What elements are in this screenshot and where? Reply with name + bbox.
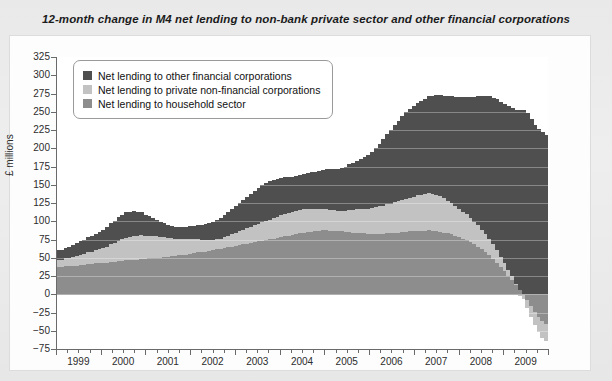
legend-item: Net lending to other financial corporati… [83, 69, 320, 82]
y-tick [51, 94, 56, 95]
y-tick [51, 221, 56, 222]
y-tick-label: 150 [14, 180, 50, 190]
y-tick-label: 25 [14, 271, 50, 281]
x-tick-major [548, 349, 549, 355]
x-tick-minor [168, 349, 169, 353]
x-tick-label: 2004 [279, 356, 325, 367]
x-tick-minor [268, 349, 269, 353]
legend-label: Net lending to household sector [98, 98, 246, 110]
y-tick [51, 313, 56, 314]
x-tick-minor [425, 349, 426, 353]
legend-label: Net lending to other financial corporati… [98, 70, 292, 82]
x-tick-label: 2007 [413, 356, 459, 367]
y-tick-label: −75 [14, 344, 50, 354]
x-tick-minor [447, 349, 448, 353]
y-tick-label: 175 [14, 162, 50, 172]
x-tick-minor [347, 349, 348, 353]
x-tick-minor [134, 349, 135, 353]
x-tick-major [324, 349, 325, 355]
x-tick-label: 2003 [234, 356, 280, 367]
x-tick-label: 1999 [55, 356, 101, 367]
x-tick-minor [201, 349, 202, 353]
x-tick-minor [67, 349, 68, 353]
x-tick-minor [470, 349, 471, 353]
y-tick [51, 148, 56, 149]
x-tick-minor [291, 349, 292, 353]
gridline [56, 313, 548, 314]
y-tick [51, 185, 56, 186]
legend-item: Net lending to private non-financial cor… [83, 83, 320, 96]
chart-card: £ millions 32530027525022520017515012510… [10, 36, 590, 370]
stack-segment [544, 294, 548, 324]
x-tick-minor [302, 349, 303, 353]
gridline [56, 331, 548, 332]
x-tick-major [503, 349, 504, 355]
y-axis-line [56, 57, 57, 350]
x-tick-major [459, 349, 460, 355]
gridline [56, 130, 548, 131]
stack-segment [544, 135, 548, 295]
x-tick-major [369, 349, 370, 355]
x-tick-label: 2002 [190, 356, 236, 367]
gridline [56, 258, 548, 259]
x-tick-minor [112, 349, 113, 353]
x-tick-minor [336, 349, 337, 353]
y-tick [51, 240, 56, 241]
x-tick-minor [436, 349, 437, 353]
x-tick-major [280, 349, 281, 355]
y-tick-label: 50 [14, 253, 50, 263]
x-tick-minor [526, 349, 527, 353]
y-tick-label: 225 [14, 125, 50, 135]
y-tick-label: 125 [14, 198, 50, 208]
y-tick [51, 294, 56, 295]
x-tick-minor [157, 349, 158, 353]
gridline [56, 185, 548, 186]
x-tick-major [145, 349, 146, 355]
x-tick-label: 2000 [100, 356, 146, 367]
x-tick-minor [257, 349, 258, 353]
x-tick-label: 2005 [324, 356, 370, 367]
y-tick [51, 130, 56, 131]
x-tick-minor [313, 349, 314, 353]
legend-swatch-icon [83, 85, 92, 94]
x-tick-minor [492, 349, 493, 353]
y-tick [51, 75, 56, 76]
x-tick-minor [246, 349, 247, 353]
y-tick-label: 300 [14, 70, 50, 80]
x-tick-major [101, 349, 102, 355]
gridline [56, 276, 548, 277]
y-tick [51, 167, 56, 168]
y-tick-label: 250 [14, 107, 50, 117]
y-tick-label: 325 [14, 52, 50, 62]
legend-label: Net lending to private non-financial cor… [98, 84, 320, 96]
x-tick-major [235, 349, 236, 355]
x-tick-minor [380, 349, 381, 353]
y-tick [51, 331, 56, 332]
x-tick-minor [481, 349, 482, 353]
x-tick-minor [537, 349, 538, 353]
y-tick-label: 100 [14, 216, 50, 226]
gridline [56, 148, 548, 149]
x-tick-label: 2008 [458, 356, 504, 367]
x-tick-minor [403, 349, 404, 353]
y-tick [51, 112, 56, 113]
chart-title: 12-month change in M4 net lending to non… [0, 13, 612, 25]
x-tick-label: 2006 [368, 356, 414, 367]
gridline [56, 203, 548, 204]
y-tick [51, 276, 56, 277]
gridline [56, 221, 548, 222]
x-tick-minor [78, 349, 79, 353]
gridline [56, 167, 548, 168]
x-tick-minor [391, 349, 392, 353]
legend: Net lending to other financial corporati… [73, 60, 333, 119]
x-tick-major [56, 349, 57, 355]
gridline [56, 294, 548, 295]
y-tick-label: 200 [14, 143, 50, 153]
x-tick-minor [179, 349, 180, 353]
legend-swatch-icon [83, 71, 92, 80]
x-tick-major [414, 349, 415, 355]
x-tick-minor [514, 349, 515, 353]
x-tick-minor [224, 349, 225, 353]
x-tick-minor [90, 349, 91, 353]
x-tick-minor [123, 349, 124, 353]
